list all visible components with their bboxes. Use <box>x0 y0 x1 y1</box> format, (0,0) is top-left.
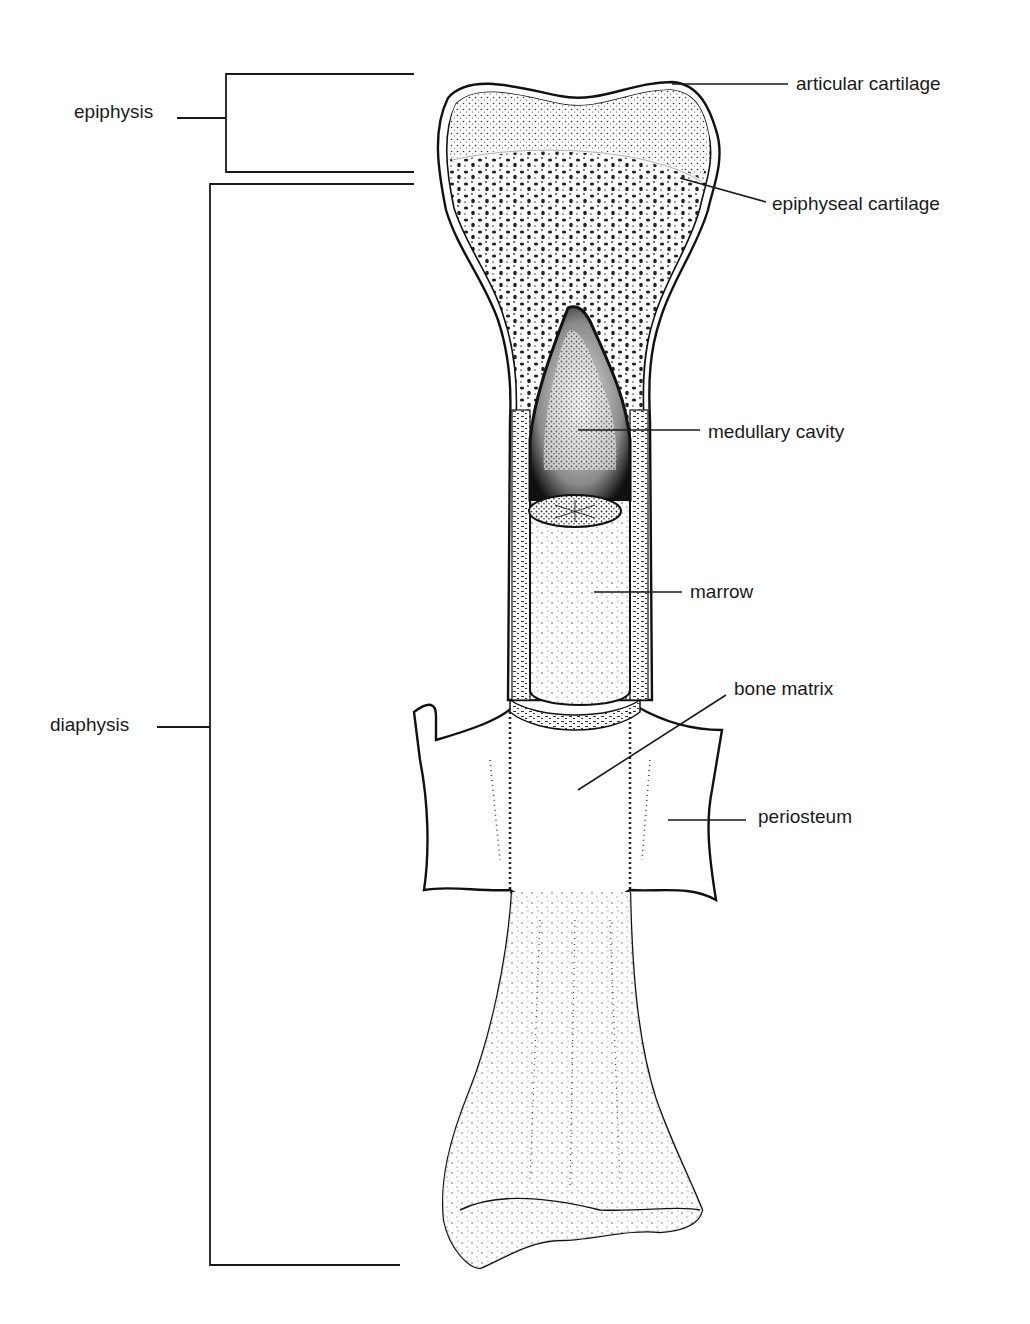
label-marrow: marrow <box>690 581 754 602</box>
label-bone-matrix: bone matrix <box>734 678 834 699</box>
label-periosteum: periosteum <box>758 806 852 827</box>
long-bone-diagram: epiphysis diaphysis articular cartilage … <box>0 0 1030 1324</box>
periosteum-flaps <box>414 700 722 905</box>
epiphysis-bracket <box>177 74 414 172</box>
diaphysis-bracket <box>157 184 414 1265</box>
label-epiphyseal-cartilage: epiphyseal cartilage <box>772 193 940 214</box>
label-medullary-cavity: medullary cavity <box>708 421 845 442</box>
label-diaphysis: diaphysis <box>50 714 129 735</box>
marrow-cylinder <box>529 495 630 705</box>
distal-bone <box>443 892 702 1268</box>
label-epiphysis: epiphysis <box>74 101 153 122</box>
label-articular-cartilage: articular cartilage <box>796 73 941 94</box>
